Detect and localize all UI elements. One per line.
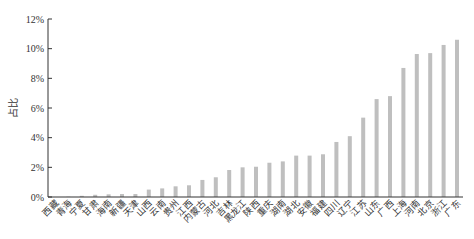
bar	[200, 180, 204, 197]
bar	[187, 185, 191, 197]
y-axis-label: 占比	[7, 98, 19, 118]
bar	[455, 40, 459, 197]
bar	[388, 96, 392, 197]
bar	[375, 99, 379, 197]
bar	[334, 142, 338, 197]
bar	[147, 190, 151, 197]
bar	[174, 186, 178, 197]
bar	[348, 136, 352, 197]
y-tick-label: 10%	[26, 43, 44, 54]
bar	[227, 170, 231, 197]
bar	[281, 161, 285, 197]
bar	[308, 156, 312, 197]
bar	[442, 45, 446, 197]
bar	[428, 53, 432, 197]
bar	[214, 177, 218, 197]
bar	[401, 68, 405, 197]
y-tick-label: 4%	[31, 132, 44, 143]
bar	[254, 167, 258, 197]
y-tick-label: 12%	[26, 14, 44, 25]
y-tick-label: 6%	[31, 103, 44, 114]
bars	[66, 40, 459, 197]
x-tick-label: 广东	[442, 198, 463, 219]
bar	[294, 156, 298, 197]
bar	[321, 154, 325, 197]
bar	[267, 163, 271, 197]
y-tick-label: 8%	[31, 73, 44, 84]
y-tick-label: 2%	[31, 162, 44, 173]
x-labels: 西藏青海宁夏甘肃海南新疆天津山西云南贵州江西内蒙古河北吉林黑龙江陕西重庆湖南湖北…	[40, 198, 463, 225]
bar	[361, 118, 365, 197]
bar-chart: 0%2%4%6%8%10%12% 占比 西藏青海宁夏甘肃海南新疆天津山西云南贵州…	[0, 0, 474, 239]
bar	[160, 188, 164, 197]
y-tick-label: 0%	[31, 192, 44, 203]
bar	[415, 54, 419, 197]
bar	[241, 167, 245, 197]
